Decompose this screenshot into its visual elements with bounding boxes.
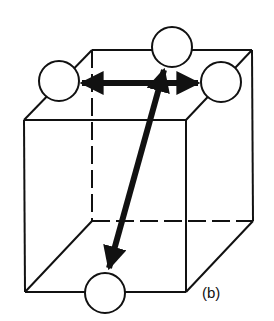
back-right-vertical-edge — [252, 50, 253, 221]
front-left-vertical-edge — [24, 120, 25, 292]
atom-right — [201, 62, 241, 102]
atoms — [39, 27, 241, 313]
arrows — [82, 70, 198, 268]
cube-diagram: (b) — [0, 0, 274, 321]
bottom-left-depth-edge — [25, 221, 92, 292]
arrow-diagonal — [109, 70, 164, 268]
atom-left — [39, 61, 79, 101]
atom-bottom — [85, 273, 125, 313]
figure-label: (b) — [202, 284, 220, 301]
bottom-right-depth-edge — [186, 221, 253, 292]
atom-top-center — [152, 27, 192, 67]
